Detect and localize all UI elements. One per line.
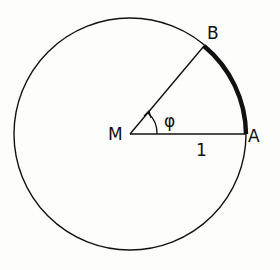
label-phi: φ bbox=[164, 113, 175, 130]
angle-arc bbox=[148, 113, 157, 134]
arc-ab bbox=[204, 46, 246, 134]
diagram-graphics bbox=[0, 0, 280, 270]
label-b: B bbox=[207, 25, 219, 42]
unit-circle-diagram: M A B φ 1 bbox=[0, 0, 280, 270]
label-radius: 1 bbox=[196, 142, 207, 159]
label-a: A bbox=[248, 128, 260, 145]
label-m: M bbox=[108, 126, 123, 143]
